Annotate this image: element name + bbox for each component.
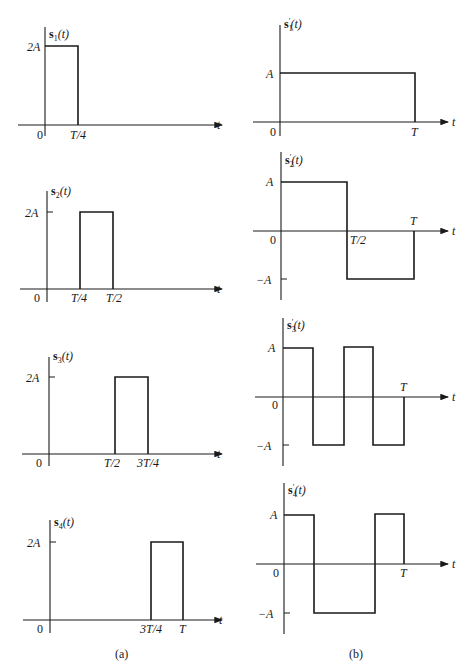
title-s4: s4(t) xyxy=(54,515,74,531)
signal-s4 xyxy=(151,542,183,620)
title-s3: s3(t) xyxy=(53,349,73,365)
origin-label: 0 xyxy=(37,128,43,142)
signal-s3-prime xyxy=(283,347,404,445)
xtick-T4: T/4 xyxy=(70,128,86,142)
ylabel-2A: 2A xyxy=(26,371,40,385)
xtick-3T4: 3T/4 xyxy=(136,456,159,470)
caption-a: (a) xyxy=(115,647,128,661)
origin-label: 0 xyxy=(273,566,279,580)
panel-s2-prime: s2′(t) A −A 0 T/2 T t xyxy=(253,152,456,300)
signal-s3 xyxy=(115,377,148,454)
origin-label: 0 xyxy=(34,291,40,305)
ylabel-neg-A: −A xyxy=(258,607,274,621)
panel-s2: s2(t) 2A 0 T/4 T/2 t xyxy=(20,184,222,305)
ylabel-A: A xyxy=(265,175,274,189)
xtick-T: T xyxy=(179,622,187,636)
t-label: t xyxy=(452,557,456,571)
panel-s1: s1(t) 2A 0 T/4 t xyxy=(18,27,222,142)
ylabel-A: A xyxy=(265,67,274,81)
origin-label: 0 xyxy=(270,125,276,139)
ylabel-A: A xyxy=(267,341,276,355)
waveform-figure: s1(t) 2A 0 T/4 t s2(t) 2A 0 T/4 T/2 t s3… xyxy=(0,0,476,671)
panel-s4: s4(t) 2A 0 3T/4 T t xyxy=(23,515,223,636)
origin-label: 0 xyxy=(37,622,43,636)
origin-label: 0 xyxy=(36,456,42,470)
t-label: t xyxy=(452,115,456,129)
title-s2-prime: s2′(t) xyxy=(285,153,303,169)
t-label: t xyxy=(452,390,456,404)
signal-s1 xyxy=(45,46,78,125)
t-label: t xyxy=(452,224,456,238)
panel-s1-prime: s1′(t) A 0 T t xyxy=(253,17,456,139)
ylabel-2A: 2A xyxy=(25,206,39,220)
signal-s1-prime xyxy=(280,73,415,122)
ylabel-2A: 2A xyxy=(27,536,41,550)
origin-label: 0 xyxy=(270,233,276,247)
title-s2: s2(t) xyxy=(51,184,71,200)
xtick-T: T xyxy=(400,380,408,394)
panel-s4-prime: s4′(t) A −A 0 T t xyxy=(256,483,456,634)
xtick-3T4: 3T/4 xyxy=(139,622,162,636)
caption-b: (b) xyxy=(349,647,363,661)
ylabel-neg-A: −A xyxy=(256,273,272,287)
ylabel-A: A xyxy=(269,508,278,522)
xtick-T2: T/2 xyxy=(350,233,366,247)
ylabel-neg-A: −A xyxy=(256,439,272,453)
title-s1: s1(t) xyxy=(49,27,69,43)
t-label: t xyxy=(219,613,223,627)
xtick-T2: T/2 xyxy=(106,291,122,305)
xtick-T: T xyxy=(410,214,418,228)
xtick-T: T xyxy=(411,125,419,139)
title-s1-prime: s1′(t) xyxy=(284,17,302,33)
title-s3-prime: s3′(t) xyxy=(287,318,305,334)
xtick-T: T xyxy=(400,566,408,580)
signal-s2 xyxy=(80,212,113,289)
title-s4-prime: s4′(t) xyxy=(288,483,306,499)
origin-label: 0 xyxy=(272,398,278,412)
panel-s3: s3(t) 2A 0 T/2 3T/4 t xyxy=(22,349,222,470)
ylabel-2A: 2A xyxy=(27,40,41,54)
xtick-T2: T/2 xyxy=(104,456,120,470)
xtick-T4: T/4 xyxy=(71,291,87,305)
panel-s3-prime: s3′(t) A −A 0 T t xyxy=(255,318,456,466)
